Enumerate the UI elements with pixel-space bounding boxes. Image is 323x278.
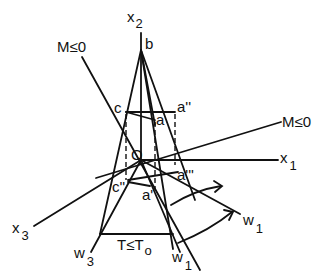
- label-b: b: [145, 35, 153, 52]
- label-x1: x1: [280, 149, 297, 173]
- label-temperature: T≤To: [117, 236, 152, 258]
- label-m-upper: M≤0: [57, 38, 86, 55]
- label-a-double-prime: a'': [177, 98, 191, 115]
- label-a-triple-prime: a''': [177, 166, 194, 183]
- edge-b-w3: [100, 50, 141, 234]
- label-m-right: M≤0: [282, 113, 311, 130]
- diagram-canvas: x2 b M≤0 M≤0 x1 x3 c a a'' O a''' c'' a'…: [0, 0, 323, 278]
- label-origin: O: [131, 146, 143, 163]
- label-a-prime: a': [142, 186, 153, 203]
- label-x2: x2: [127, 8, 143, 31]
- label-c: c: [114, 99, 122, 116]
- edge-b-a: [141, 50, 155, 125]
- label-x3: x3: [12, 219, 29, 243]
- label-a: a: [156, 111, 165, 128]
- label-w3: w3: [73, 244, 94, 269]
- curved-arrow-outer: [178, 212, 232, 243]
- label-c-double-prime: c'': [112, 178, 125, 195]
- label-w1-right: w1: [242, 211, 263, 236]
- curved-arrow-inner: [171, 186, 221, 205]
